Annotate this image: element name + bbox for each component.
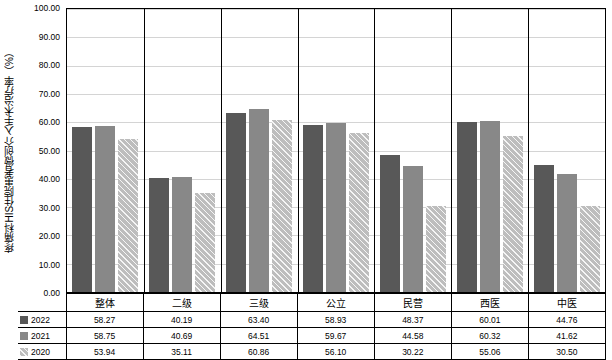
- legend-swatch-2022: [20, 316, 28, 324]
- category-label-整体: 整体: [66, 294, 143, 312]
- bar-group: [298, 9, 375, 292]
- y-tick-label: 60.00: [39, 117, 60, 127]
- bar-2022-公立: [303, 125, 323, 292]
- bar-group: [221, 9, 298, 292]
- value-2021-西医: 60.32: [451, 328, 528, 344]
- value-2021-三级: 64.51: [220, 328, 297, 344]
- y-axis-title-text: 疼痛科HIS住院患者微创介入手术治疗率（%）: [4, 47, 16, 253]
- y-axis-title: 疼痛科HIS住院患者微创介入手术治疗率（%）: [2, 10, 18, 290]
- legend-item-2022: 2022: [18, 312, 66, 328]
- plot-wrapper: 0.0010.0020.0030.0040.0050.0060.0070.008…: [18, 8, 606, 293]
- value-2020-二级: 35.11: [143, 344, 220, 360]
- value-2020-民营: 30.22: [374, 344, 451, 360]
- category-header-row: 整体二级三级公立民营西医中医: [18, 294, 606, 312]
- bar-2020-民营: [426, 206, 446, 292]
- bar-2022-民营: [380, 155, 400, 292]
- value-2022-整体: 58.27: [66, 312, 143, 328]
- value-2022-公立: 58.93: [297, 312, 374, 328]
- value-2020-西医: 55.06: [451, 344, 528, 360]
- bar-2020-西医: [503, 136, 523, 292]
- bar-groups: [67, 9, 605, 292]
- legend-swatch-2020: [20, 348, 28, 356]
- series-row-2020: 202053.9435.1160.8656.1030.2255.0630.50: [18, 344, 606, 360]
- bar-2021-民营: [403, 166, 423, 292]
- bar-group: [528, 9, 605, 292]
- category-label-三级: 三级: [220, 294, 297, 312]
- bar-group: [67, 9, 144, 292]
- value-2021-民营: 44.58: [374, 328, 451, 344]
- legend-label-2020: 2020: [31, 347, 50, 357]
- value-2022-二级: 40.19: [143, 312, 220, 328]
- y-tick-label: 100.00: [34, 3, 60, 13]
- table-corner-cell: [18, 294, 66, 312]
- bar-group: [144, 9, 221, 292]
- y-tick-label: 10.00: [39, 260, 60, 270]
- value-2021-中医: 41.62: [528, 328, 605, 344]
- bar-2020-三级: [272, 120, 292, 292]
- y-tick-label: 40.00: [39, 174, 60, 184]
- series-row-2022: 202258.2740.1963.4058.9348.3760.0144.76: [18, 312, 606, 328]
- bar-2020-公立: [349, 133, 369, 292]
- bar-2021-西医: [480, 121, 500, 292]
- bar-2022-整体: [72, 127, 92, 292]
- value-2022-西医: 60.01: [451, 312, 528, 328]
- y-axis-ticks: 0.0010.0020.0030.0040.0050.0060.0070.008…: [18, 8, 64, 293]
- bar-2020-二级: [195, 193, 215, 292]
- legend-item-2020: 2020: [18, 344, 66, 360]
- value-2022-中医: 44.76: [528, 312, 605, 328]
- bar-2021-公立: [326, 123, 346, 292]
- bar-2022-二级: [149, 178, 169, 292]
- series-row-2021: 202158.7540.6964.5159.6744.5860.3241.62: [18, 328, 606, 344]
- y-tick-label: 30.00: [39, 203, 60, 213]
- value-2020-公立: 56.10: [297, 344, 374, 360]
- bar-group: [451, 9, 528, 292]
- data-table: 整体二级三级公立民营西医中医202258.2740.1963.4058.9348…: [18, 293, 606, 360]
- bar-2022-中医: [534, 165, 554, 292]
- value-2020-整体: 53.94: [66, 344, 143, 360]
- bar-2020-中医: [580, 206, 600, 292]
- category-label-西医: 西医: [451, 294, 528, 312]
- category-label-民营: 民营: [374, 294, 451, 312]
- bar-2021-三级: [249, 109, 269, 292]
- bar-2021-二级: [172, 177, 192, 292]
- value-2021-公立: 59.67: [297, 328, 374, 344]
- bar-2022-西医: [457, 122, 477, 292]
- value-2022-三级: 63.40: [220, 312, 297, 328]
- bar-2021-整体: [95, 126, 115, 292]
- bar-2022-三级: [226, 113, 246, 292]
- y-tick-label: 50.00: [39, 146, 60, 156]
- y-tick-label: 90.00: [39, 32, 60, 42]
- value-2021-二级: 40.69: [143, 328, 220, 344]
- value-2020-中医: 30.50: [528, 344, 605, 360]
- legend-label-2022: 2022: [31, 315, 50, 325]
- bar-2020-整体: [118, 139, 138, 292]
- bar-2021-中医: [557, 174, 577, 292]
- y-tick-label: 80.00: [39, 60, 60, 70]
- legend-label-2021: 2021: [31, 331, 50, 341]
- category-label-二级: 二级: [143, 294, 220, 312]
- plot-area: [66, 8, 606, 293]
- value-2022-民营: 48.37: [374, 312, 451, 328]
- category-label-公立: 公立: [297, 294, 374, 312]
- y-tick-label: 70.00: [39, 89, 60, 99]
- legend-item-2021: 2021: [18, 328, 66, 344]
- category-label-中医: 中医: [528, 294, 605, 312]
- bar-group: [374, 9, 451, 292]
- value-2020-三级: 60.86: [220, 344, 297, 360]
- legend-swatch-2021: [20, 332, 28, 340]
- value-2021-整体: 58.75: [66, 328, 143, 344]
- y-tick-label: 20.00: [39, 231, 60, 241]
